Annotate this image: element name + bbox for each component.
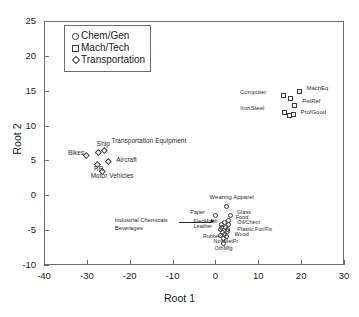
legend-label-chem-gen: Chem/Gen (81, 31, 129, 41)
x-tick-mark (173, 260, 174, 265)
annotation-arrow-head (211, 219, 215, 223)
y-tick-mark (44, 265, 49, 266)
x-tick-label: 0 (200, 271, 230, 281)
diamond-marker-icon (70, 57, 81, 63)
y-tick-label: 10 (6, 121, 36, 131)
annotation-line-1: Industrial Chemicals (115, 217, 168, 225)
x-axis-title: Root 1 (0, 292, 359, 304)
square-marker-icon (70, 45, 81, 52)
data-point-label: MachEq (306, 85, 328, 92)
data-point-label: Bikes (68, 149, 84, 156)
data-point-label: NonMetPr (214, 238, 239, 244)
data-point-label: IronSteel (240, 105, 264, 112)
y-tick-mark (44, 126, 49, 127)
y-tick-mark (44, 230, 49, 231)
data-point-marker (282, 110, 287, 115)
x-tick-label: 10 (243, 271, 273, 281)
data-point-label: OthMfg (215, 245, 233, 251)
y-tick-label: 5 (6, 155, 36, 165)
x-tick-label: -10 (158, 271, 188, 281)
x-tick-mark (130, 260, 131, 265)
x-tick-label: 30 (329, 271, 359, 281)
data-point-marker (225, 227, 230, 232)
legend-entry-mach-tech: Mach/Tech (70, 43, 145, 55)
x-tick-mark (344, 260, 345, 265)
data-point-marker (288, 96, 293, 101)
y-tick-mark (44, 56, 49, 57)
x-tick-mark (87, 260, 88, 265)
data-point-label: Oil/Chem (237, 219, 260, 225)
y-tick-mark (44, 21, 49, 22)
data-point-marker (281, 93, 286, 98)
annotation-arrow-line (179, 222, 212, 223)
data-point-label: Ship (97, 140, 110, 147)
y-tick-label: -10 (6, 260, 36, 270)
data-point-label: Computer (240, 89, 266, 96)
x-tick-mark (215, 260, 216, 265)
data-point-label: PetRef (302, 98, 320, 105)
data-point-marker (297, 89, 302, 94)
x-tick-label: -30 (72, 271, 102, 281)
y-tick-label: 25 (6, 16, 36, 26)
y-tick-label: 0 (6, 190, 36, 200)
legend-box: Chem/Gen Mach/Tech Transportation (64, 25, 151, 72)
annotation-text: Industrial ChemicalsBeverages (115, 217, 168, 233)
data-point-label: Wearing Apparel (210, 194, 254, 201)
annotation-line-2: Beverages (115, 225, 168, 233)
data-point-marker (287, 113, 292, 118)
x-tick-mark (301, 260, 302, 265)
x-tick-label: -20 (115, 271, 145, 281)
y-tick-mark (44, 91, 49, 92)
data-point-label: Aircraft (116, 156, 137, 163)
x-tick-mark (258, 260, 259, 265)
legend-entry-transportation: Transportation (70, 55, 145, 67)
legend-label-transportation: Transportation (81, 55, 145, 65)
y-tick-mark (44, 195, 49, 196)
data-point-marker (228, 213, 233, 218)
data-point-label: Motor Vehicles (91, 172, 134, 179)
data-point-label: Leather (194, 223, 213, 229)
x-tick-label: 20 (286, 271, 316, 281)
y-tick-mark (44, 160, 49, 161)
y-tick-label: 20 (6, 51, 36, 61)
y-tick-label: -5 (6, 225, 36, 235)
data-point-label: Paper (190, 209, 205, 215)
legend-label-mach-tech: Mach/Tech (81, 43, 129, 53)
data-point-marker (292, 103, 297, 108)
y-tick-label: 15 (6, 86, 36, 96)
legend-entry-chem-gen: Chem/Gen (70, 31, 145, 43)
data-point-label: Wood (235, 231, 249, 237)
data-point-label: Transportation Equipment (111, 137, 186, 144)
data-point-label: RR (94, 165, 103, 172)
data-point-label: ProfGood (300, 109, 326, 116)
x-tick-mark (44, 260, 45, 265)
chart-figure: Root 2 Root 1 -10-50510152025-40-30-20-1… (0, 0, 359, 317)
x-tick-label: -40 (29, 271, 59, 281)
circle-marker-icon (70, 33, 81, 40)
